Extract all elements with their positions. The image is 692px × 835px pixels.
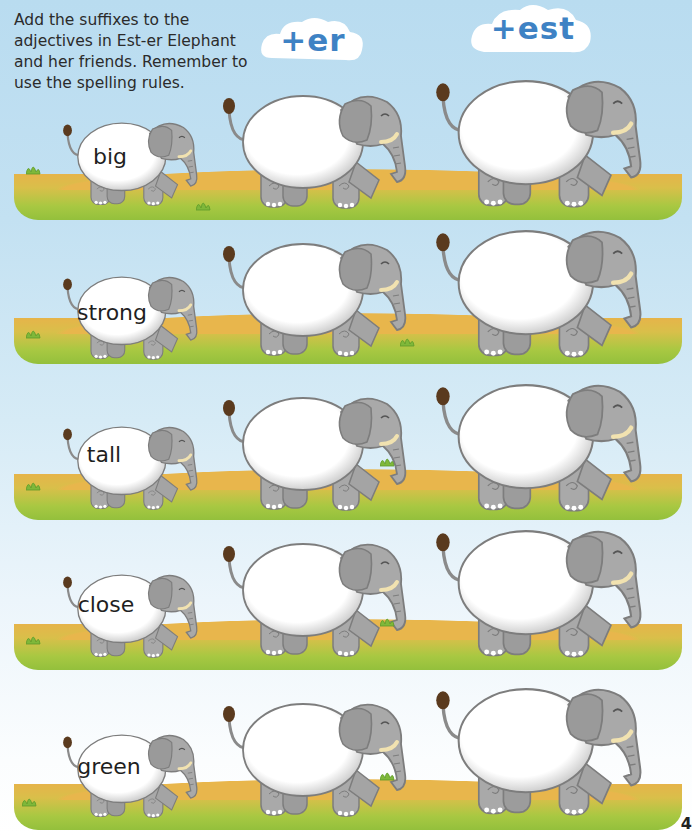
suffix-er-label: +er: [258, 22, 368, 58]
page-number: 4: [681, 814, 692, 833]
large-elephant-est-answer[interactable]: [410, 202, 682, 370]
medium-elephant-er-answer[interactable]: [196, 678, 446, 828]
grass-icon: [380, 456, 396, 468]
adjective-word: big: [70, 144, 150, 169]
medium-elephant-er-answer[interactable]: [196, 372, 446, 522]
adjective-word: tall: [64, 442, 144, 467]
grass-icon: [380, 770, 396, 782]
grass-icon: [380, 616, 396, 628]
grass-icon: [196, 200, 212, 212]
grass-icon: [22, 796, 38, 808]
grass-icon: [400, 336, 416, 348]
adjective-word: close: [66, 592, 146, 617]
adjective-word: strong: [62, 300, 162, 325]
medium-elephant-er-answer[interactable]: [196, 70, 446, 220]
suffix-est-label: +est: [468, 10, 598, 46]
medium-elephant-er-answer[interactable]: [196, 518, 446, 668]
exercise-row-green: green: [0, 664, 692, 814]
exercise-row-tall: tall: [0, 356, 692, 506]
exercise-row-big: big: [0, 68, 692, 218]
exercise-row-strong: strong: [0, 212, 692, 362]
exercise-row-close: close: [0, 508, 692, 658]
large-elephant-est-answer[interactable]: [410, 52, 682, 220]
large-elephant-est-answer[interactable]: [410, 660, 682, 828]
suffix-cloud-er: +er: [258, 14, 368, 70]
grass-icon: [26, 328, 42, 340]
adjective-word: green: [64, 754, 154, 779]
large-elephant-est-answer[interactable]: [410, 502, 682, 670]
grass-icon: [26, 480, 42, 492]
grass-icon: [26, 164, 42, 176]
large-elephant-est-answer[interactable]: [410, 356, 682, 524]
grass-icon: [26, 634, 42, 646]
